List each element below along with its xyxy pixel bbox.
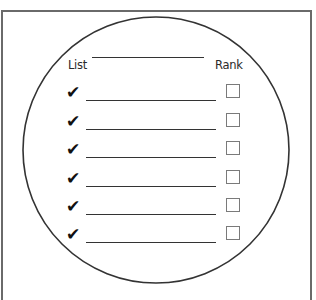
item-answer-line[interactable] xyxy=(86,214,216,215)
check-mark-icon: ✔ xyxy=(66,141,80,158)
rank-checkbox[interactable] xyxy=(226,141,240,155)
item-answer-line[interactable] xyxy=(86,157,216,158)
check-mark-icon: ✔ xyxy=(66,113,80,130)
item-answer-line[interactable] xyxy=(86,186,216,187)
check-mark-icon: ✔ xyxy=(66,226,80,243)
item-answer-line[interactable] xyxy=(86,129,216,130)
check-mark-icon: ✔ xyxy=(66,198,80,215)
list-label: List xyxy=(68,58,87,72)
item-answer-line[interactable] xyxy=(86,100,216,101)
rank-checkbox[interactable] xyxy=(226,84,240,98)
rank-checkbox[interactable] xyxy=(226,226,240,240)
rank-label: Rank xyxy=(215,58,243,72)
item-answer-line[interactable] xyxy=(86,242,216,243)
rank-checkbox[interactable] xyxy=(226,198,240,212)
check-mark-icon: ✔ xyxy=(66,170,80,187)
title-line[interactable] xyxy=(92,57,204,58)
rank-checkbox[interactable] xyxy=(226,170,240,184)
rank-checkbox[interactable] xyxy=(226,113,240,127)
check-mark-icon: ✔ xyxy=(66,84,80,101)
